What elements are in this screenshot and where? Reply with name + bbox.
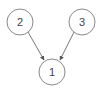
edge-2-to-1 [28,32,44,60]
node-2: 2 [7,9,33,35]
node-3-label: 3 [79,16,85,28]
node-3: 3 [69,9,95,35]
graph-canvas: 2 3 1 [0,0,104,94]
edge-3-to-1 [60,32,74,60]
node-1-label: 1 [49,66,55,78]
node-2-label: 2 [17,16,23,28]
node-1: 1 [39,59,65,85]
